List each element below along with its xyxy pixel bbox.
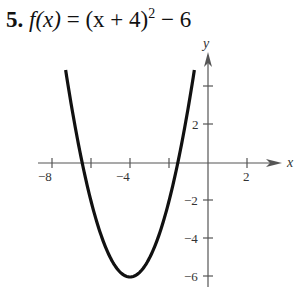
x-tick-label: −4 [116, 169, 130, 184]
y-tick-label: 2 [192, 117, 199, 132]
parabola-curve [66, 70, 195, 277]
graph: x y −8 −4 2 2 −2 −4 −6 [0, 0, 307, 298]
y-tick-label: −2 [184, 193, 198, 208]
y-tick-label: −6 [184, 269, 198, 284]
x-axis-label: x [286, 155, 294, 170]
y-tick-label: −4 [184, 231, 198, 246]
y-axis-label: y [201, 36, 210, 51]
x-tick-label: 2 [243, 169, 250, 184]
x-tick-label: −8 [38, 169, 52, 184]
